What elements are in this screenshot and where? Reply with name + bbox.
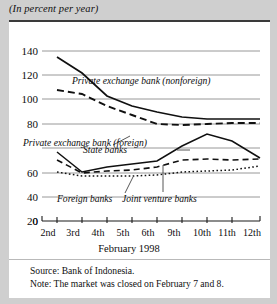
y-tick-labels: 140 120 100 80 60 40 20 [22,45,39,227]
y-tick-120: 120 [22,69,39,81]
figure-root: (In percent per year) [0,0,277,304]
label-joint-venture-banks: Joint venture banks [122,193,197,204]
source-note: Source: Bank of Indonesia. [30,265,270,278]
label-private-exchange-nonforeign: Private exchange bank (nonforeign) [71,75,210,87]
x-tick-labels: 2nd 3rd 4th 5th 6th 9th 10th 11th 12th [41,227,261,238]
x-tick-9th: 9th [168,227,181,238]
x-tick-4th: 4th [92,227,105,238]
market-note: Note: The market was closed on February … [30,278,270,291]
y-tick-60: 60 [27,167,39,179]
x-tick-2nd: 2nd [41,227,56,238]
y-tick-140: 140 [22,45,39,57]
footer-divider [9,259,270,260]
line-chart: 140 120 100 80 60 40 20 0 [9,24,270,256]
y-tick-zero: 0 [33,215,39,227]
figure-footer: Source: Bank of Indonesia. Note: The mar… [30,265,270,290]
annotation-labels: Private exchange bank (nonforeign) Priva… [22,75,210,204]
x-tick-12th: 12th [243,227,261,238]
y-tick-100: 100 [22,93,39,105]
x-axis [42,216,260,223]
y-tick-40: 40 [27,191,39,203]
label-state-banks: State banks [83,144,127,155]
x-tick-5th: 5th [117,227,130,238]
x-tick-11th: 11th [218,227,235,238]
series-private-exchange-nonforeign [57,57,260,119]
x-axis-title: February 1998 [98,243,160,254]
x-tick-10th: 10th [193,227,211,238]
x-tick-6th: 6th [142,227,155,238]
units-subtitle: (In percent per year) [9,3,98,14]
y-tick-80: 80 [27,118,39,130]
label-foreign-banks: Foreign banks [56,193,113,204]
header-rule [9,20,270,22]
x-tick-3rd: 3rd [66,227,79,238]
